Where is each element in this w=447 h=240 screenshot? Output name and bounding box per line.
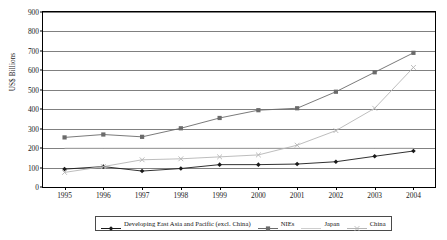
data-point — [140, 169, 145, 174]
x-tick-label: 1995 — [57, 191, 72, 200]
series-1 — [62, 51, 415, 140]
x-tick-label: 1996 — [96, 191, 111, 200]
x-tick-label: 2001 — [290, 191, 305, 200]
y-tick-label: 900 — [28, 8, 39, 17]
x-tick-mark — [297, 187, 298, 190]
y-tick-label: 300 — [28, 124, 39, 133]
x-tick-mark — [258, 187, 259, 190]
data-point — [256, 162, 261, 167]
y-tick-label: 800 — [28, 27, 39, 36]
data-point — [295, 106, 299, 110]
y-tick-label: 600 — [28, 66, 39, 75]
legend-label: China — [370, 220, 386, 227]
data-point — [140, 135, 144, 139]
y-tick-label: 500 — [28, 85, 39, 94]
data-point — [256, 108, 260, 112]
x-tick-mark — [181, 187, 182, 190]
data-point — [295, 162, 300, 167]
data-point — [411, 65, 416, 70]
x-tick-mark — [336, 187, 337, 190]
y-tick-label: 0 — [35, 183, 39, 192]
data-point — [411, 51, 415, 55]
x-tick-mark — [375, 187, 376, 190]
legend-item[interactable]: NIEs — [258, 219, 295, 228]
line-chart: US$ Billions 010020030040050060070080090… — [0, 0, 447, 240]
chart-legend: Developing East Asia and Pacific (excl. … — [95, 216, 392, 231]
y-tick-label: 200 — [28, 144, 39, 153]
y-tick-label: 700 — [28, 46, 39, 55]
data-point — [62, 135, 66, 139]
x-tick-label: 2003 — [367, 191, 382, 200]
series-0 — [62, 149, 415, 174]
series-layer — [43, 12, 435, 187]
y-axis-title: US$ Billions — [9, 27, 17, 117]
data-point — [373, 70, 377, 74]
x-tick-mark — [142, 187, 143, 190]
legend-label: Japan — [324, 220, 339, 227]
legend-item[interactable]: Japan — [301, 219, 339, 228]
y-tick-label: 400 — [28, 105, 39, 114]
legend-swatch-icon — [301, 219, 321, 228]
data-point — [334, 128, 339, 133]
x-tick-label: 1999 — [212, 191, 227, 200]
x-tick-mark — [65, 187, 66, 190]
data-point — [179, 166, 184, 171]
x-tick-label: 1998 — [173, 191, 188, 200]
data-point — [372, 106, 377, 111]
x-tick-label: 1997 — [135, 191, 150, 200]
legend-label: NIEs — [281, 220, 295, 227]
legend-swatch-icon — [347, 219, 367, 228]
data-point — [101, 132, 105, 136]
x-tick-label: 2002 — [329, 191, 344, 200]
x-tick-label: 2004 — [406, 191, 421, 200]
data-point — [411, 149, 416, 154]
data-point — [334, 159, 339, 164]
series-line — [65, 151, 414, 171]
series-line — [65, 67, 414, 172]
x-tick-label: 2000 — [251, 191, 266, 200]
x-tick-mark — [220, 187, 221, 190]
y-tick-label: 100 — [28, 163, 39, 172]
x-tick-mark — [413, 187, 414, 190]
legend-swatch-icon — [101, 219, 121, 228]
data-point — [334, 90, 338, 94]
legend-item[interactable]: China — [347, 219, 386, 228]
legend-item[interactable]: Developing East Asia and Pacific (excl. … — [101, 219, 251, 228]
legend-label: Developing East Asia and Pacific (excl. … — [124, 220, 251, 227]
legend-swatch-icon — [258, 219, 278, 228]
x-tick-mark — [103, 187, 104, 190]
data-point — [372, 154, 377, 159]
series-line — [65, 53, 414, 138]
plot-area: 0100200300400500600700800900 19951996199… — [42, 11, 436, 188]
data-point — [218, 116, 222, 120]
data-point — [179, 126, 183, 130]
data-point — [217, 162, 222, 167]
